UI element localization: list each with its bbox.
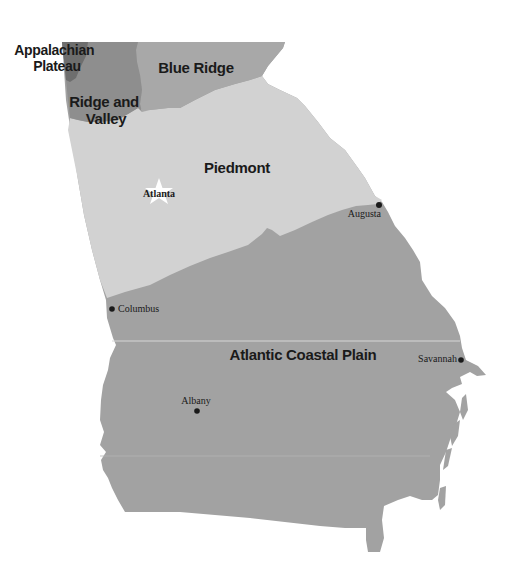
city-label-savannah: Savannah [418, 353, 457, 364]
city-label-augusta: Augusta [348, 208, 382, 219]
georgia-regions-map: Appalachian Plateau Blue Ridge Ridge and… [0, 0, 514, 576]
label-atlantic-coastal-plain: Atlantic Coastal Plain [230, 346, 377, 363]
dot-icon [194, 408, 200, 414]
label-piedmont: Piedmont [204, 159, 270, 176]
label-blue-ridge: Blue Ridge [158, 59, 233, 76]
coastal-island [460, 394, 468, 420]
dot-icon [109, 306, 115, 312]
city-label-columbus: Columbus [118, 303, 159, 314]
coastal-island [438, 486, 446, 510]
dot-icon [458, 357, 464, 363]
city-label-atlanta: Atlanta [143, 188, 175, 199]
city-label-albany: Albany [181, 395, 210, 406]
